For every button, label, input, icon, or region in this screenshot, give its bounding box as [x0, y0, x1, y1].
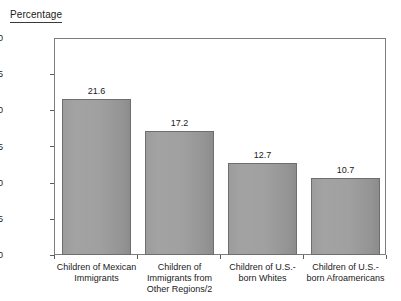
y-tick-label-10: 10: [0, 178, 3, 187]
bar-children-of-us-born-whites: [228, 163, 297, 255]
x-axis-label-3: Children of U.S.- born Whites: [229, 262, 296, 284]
y-tick-label-0: 0: [0, 251, 3, 260]
x-axis-label-1-line-1: Children of Mexican: [57, 262, 137, 273]
bar-value-label-3: 12.7: [254, 150, 272, 160]
bar-chart: Percentage 30 25 20 15 10 5 0 21.6 17.2 …: [0, 0, 401, 301]
x-tick-mark-2: [220, 255, 221, 259]
x-tick-mark-1: [137, 255, 138, 259]
y-tick-label-25: 25: [0, 70, 3, 79]
bars-layer: [54, 38, 386, 255]
x-tick-mark-3: [303, 255, 304, 259]
x-axis-label-2-line-3: Other Regions/2: [147, 284, 213, 295]
x-axis-label-1: Children of Mexican Immigrants: [57, 262, 137, 284]
x-axis-label-4-line-1: Children of U.S.-: [306, 262, 384, 273]
x-axis-label-2-line-1: Children of: [147, 262, 213, 273]
y-tick-label-30: 30: [0, 34, 3, 43]
y-axis: 30 25 20 15 10 5 0: [0, 0, 54, 301]
bar-children-of-us-born-afroamericans: [311, 178, 380, 255]
bar-children-of-immigrants-other-regions: [145, 131, 214, 255]
y-tick-label-15: 15: [0, 142, 3, 151]
y-tick-label-5: 5: [0, 214, 3, 223]
y-tick-label-20: 20: [0, 106, 3, 115]
x-axis-label-4: Children of U.S.- born Afroamericans: [306, 262, 384, 284]
bar-children-of-mexican-immigrants: [62, 99, 131, 255]
x-axis-label-1-line-2: Immigrants: [57, 273, 137, 284]
x-axis-label-2: Children of Immigrants from Other Region…: [147, 262, 213, 295]
x-axis-label-3-line-2: born Whites: [229, 273, 296, 284]
x-axis-label-3-line-1: Children of U.S.-: [229, 262, 296, 273]
x-axis-label-4-line-2: born Afroamericans: [306, 273, 384, 284]
x-tick-mark-0: [54, 255, 55, 259]
bar-value-label-4: 10.7: [337, 165, 355, 175]
bar-value-label-2: 17.2: [171, 118, 189, 128]
bar-value-label-1: 21.6: [88, 86, 106, 96]
x-axis-label-2-line-2: Immigrants from: [147, 273, 213, 284]
x-tick-mark-4: [386, 255, 387, 259]
